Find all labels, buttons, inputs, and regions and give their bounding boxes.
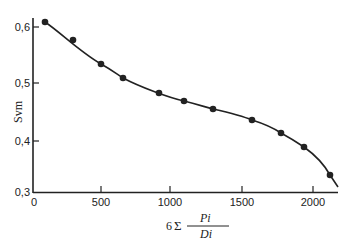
data-point bbox=[42, 19, 49, 26]
x-tick-label: 1000 bbox=[158, 196, 182, 208]
svg-text:Di: Di bbox=[199, 227, 212, 241]
data-point bbox=[301, 144, 308, 151]
data-point bbox=[156, 90, 163, 97]
data-point bbox=[70, 37, 77, 44]
x-tick-label: 500 bbox=[92, 196, 110, 208]
data-point bbox=[98, 61, 105, 68]
svg-text:Pi: Pi bbox=[199, 211, 211, 225]
y-tick-label: 0,5 bbox=[15, 77, 30, 89]
data-point bbox=[278, 130, 285, 137]
x-tick-label: 1500 bbox=[230, 196, 254, 208]
data-point bbox=[327, 172, 334, 179]
y-axis-label: Svm bbox=[11, 100, 25, 123]
svg-text:Σ: Σ bbox=[174, 218, 182, 233]
y-tick-label: 0,6 bbox=[15, 21, 30, 33]
x-tick-label: 2000 bbox=[301, 196, 325, 208]
y-tick-label: 0,4 bbox=[15, 135, 30, 147]
data-point bbox=[249, 117, 256, 124]
x-tick-label: 0 bbox=[31, 196, 37, 208]
chart: 0,6 0,5 0,4 0,3 0 500 1000 1500 2000 Svm… bbox=[0, 0, 350, 243]
x-axis-label: 6 Σ Pi Di bbox=[166, 211, 229, 241]
data-point bbox=[120, 75, 127, 82]
data-points bbox=[42, 19, 334, 179]
y-tick-label: 0,3 bbox=[15, 186, 30, 198]
svg-text:6: 6 bbox=[166, 219, 172, 233]
x-ticks bbox=[101, 186, 313, 192]
data-point bbox=[210, 106, 217, 113]
fit-curve bbox=[45, 22, 338, 187]
y-ticks bbox=[33, 27, 39, 141]
data-point bbox=[181, 98, 188, 105]
